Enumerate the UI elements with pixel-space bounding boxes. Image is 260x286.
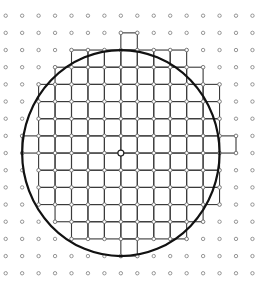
grid-node xyxy=(201,203,205,207)
lattice-dot xyxy=(169,14,172,17)
unit-square xyxy=(121,239,137,256)
lattice-dot xyxy=(37,272,40,275)
grid-node xyxy=(185,237,189,241)
grid-node xyxy=(234,134,238,138)
grid-node xyxy=(136,100,140,104)
grid-node xyxy=(185,48,189,52)
lattice-dot xyxy=(185,14,188,17)
unit-square xyxy=(104,222,120,239)
lattice-dot xyxy=(4,254,7,257)
unit-square xyxy=(88,136,104,153)
lattice-dot xyxy=(20,48,23,51)
grid-node xyxy=(136,134,140,138)
lattice-dot xyxy=(251,83,254,86)
unit-square xyxy=(104,67,120,84)
unit-square xyxy=(170,187,186,204)
unit-square xyxy=(154,205,170,222)
unit-square xyxy=(55,84,71,101)
lattice-dot xyxy=(234,117,237,120)
unit-square xyxy=(88,222,104,239)
unit-square xyxy=(55,119,71,136)
lattice-dot xyxy=(218,31,221,34)
grid-node xyxy=(168,168,172,172)
grid-node xyxy=(218,117,222,121)
unit-square xyxy=(39,170,55,187)
grid-node xyxy=(119,237,123,241)
grid-node xyxy=(168,151,172,155)
lattice-dot xyxy=(201,31,204,34)
unit-square xyxy=(55,153,71,170)
unit-square xyxy=(170,102,186,119)
grid-node xyxy=(103,220,107,224)
lattice-dot xyxy=(4,100,7,103)
grid-node xyxy=(103,134,107,138)
unit-square xyxy=(104,119,120,136)
grid-node xyxy=(53,168,57,172)
lattice-dot xyxy=(119,272,122,275)
grid-node xyxy=(168,186,172,190)
lattice-dot xyxy=(53,31,56,34)
grid-node xyxy=(168,48,172,52)
unit-square xyxy=(137,187,153,204)
grid-node xyxy=(70,117,74,121)
unit-square xyxy=(72,170,88,187)
unit-square xyxy=(72,119,88,136)
grid-node xyxy=(168,203,172,207)
grid-node xyxy=(70,65,74,69)
grid-node xyxy=(201,117,205,121)
grid-node xyxy=(201,65,205,69)
grid-node xyxy=(103,151,107,155)
grid-node xyxy=(201,100,205,104)
unit-square xyxy=(121,33,137,50)
lattice-dot xyxy=(20,14,23,17)
lattice-dot xyxy=(234,203,237,206)
grid-node xyxy=(185,203,189,207)
lattice-dot xyxy=(251,203,254,206)
grid-node xyxy=(185,168,189,172)
lattice-dot xyxy=(4,66,7,69)
lattice-dot xyxy=(4,220,7,223)
grid-node xyxy=(70,48,74,52)
unit-square xyxy=(39,187,55,204)
unit-square xyxy=(137,205,153,222)
unit-square xyxy=(72,136,88,153)
unit-square xyxy=(187,136,203,153)
grid-node xyxy=(185,83,189,87)
unit-square xyxy=(55,102,71,119)
grid-node xyxy=(86,134,90,138)
grid-node xyxy=(136,83,140,87)
grid-node xyxy=(201,186,205,190)
grid-node xyxy=(152,117,156,121)
lattice-dot xyxy=(251,186,254,189)
grid-node xyxy=(86,48,90,52)
unit-square xyxy=(88,119,104,136)
grid-node xyxy=(37,203,41,207)
unit-square xyxy=(121,102,137,119)
unit-square xyxy=(187,119,203,136)
lattice-dot xyxy=(251,220,254,223)
grid-node xyxy=(168,83,172,87)
grid-node xyxy=(70,186,74,190)
lattice-dot xyxy=(4,14,7,17)
unit-square xyxy=(39,136,55,153)
grid-node xyxy=(70,100,74,104)
unit-square xyxy=(55,136,71,153)
grid-node xyxy=(136,203,140,207)
unit-square xyxy=(88,170,104,187)
grid-node xyxy=(152,220,156,224)
unit-square xyxy=(137,170,153,187)
unit-square xyxy=(170,170,186,187)
grid-node xyxy=(119,31,123,35)
unit-square xyxy=(187,187,203,204)
lattice-dot xyxy=(20,186,23,189)
unit-square xyxy=(104,50,120,67)
lattice-dot xyxy=(251,272,254,275)
lattice-dot xyxy=(4,272,7,275)
unit-square xyxy=(203,153,219,170)
unit-square xyxy=(220,136,236,153)
lattice-dot xyxy=(169,254,172,257)
lattice-dot xyxy=(234,100,237,103)
lattice-dot xyxy=(218,48,221,51)
unit-square xyxy=(187,67,203,84)
unit-square xyxy=(154,102,170,119)
